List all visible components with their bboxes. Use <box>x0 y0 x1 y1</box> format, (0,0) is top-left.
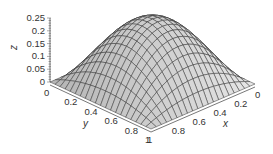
surface-plot: 00.050.10.150.20.25 00.20.40.60.81 00.20… <box>0 0 273 154</box>
y-tick-label: 0.6 <box>105 115 118 126</box>
y-tick-label: 0 <box>44 87 49 98</box>
z-tick-label: 0.2 <box>32 25 45 36</box>
y-axis-label: y <box>82 118 89 129</box>
y-tick-label: 0.2 <box>64 96 77 107</box>
x-tick-label: 1 <box>147 134 152 145</box>
y-tick-label: 0.8 <box>125 125 138 136</box>
z-axis: 00.050.10.150.20.25 <box>27 12 52 87</box>
x-tick-label: 0.4 <box>213 107 226 118</box>
x-tick-label: 0.6 <box>193 116 206 127</box>
z-tick-label: 0.1 <box>32 50 45 61</box>
y-tick-label: 0.4 <box>84 106 97 117</box>
z-tick-label: 0.25 <box>27 12 46 23</box>
x-axis-label: x <box>222 118 229 129</box>
x-tick-label: 0.2 <box>234 98 247 109</box>
z-tick-label: 0.05 <box>27 63 46 74</box>
z-tick-label: 0 <box>40 76 45 87</box>
z-tick-label: 0.15 <box>27 38 46 49</box>
z-axis-label: z <box>8 45 19 51</box>
x-tick-label: 0 <box>255 89 260 100</box>
x-tick-label: 0.8 <box>172 125 185 136</box>
